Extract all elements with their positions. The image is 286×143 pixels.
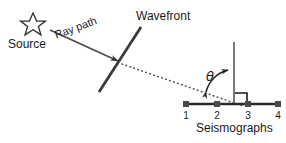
source-star-icon [21, 13, 46, 35]
theta-angle-label: θ [206, 70, 214, 83]
station-marker-3 [245, 101, 251, 107]
seismic-ray-diagram: Source Ray path Wavefront θ Seismographs… [0, 0, 286, 143]
station-number-2: 2 [214, 110, 220, 121]
station-number-1: 1 [183, 110, 189, 121]
station-marker-4 [275, 101, 281, 107]
station-marker-1 [183, 101, 189, 107]
seismographs-label: Seismographs [196, 122, 273, 134]
wavefront-label: Wavefront [136, 10, 190, 22]
source-label: Source [8, 38, 46, 50]
station-number-3: 3 [245, 110, 251, 121]
station-number-4: 4 [275, 110, 281, 121]
wavefront-line [99, 27, 141, 92]
station-marker-2 [214, 101, 220, 107]
